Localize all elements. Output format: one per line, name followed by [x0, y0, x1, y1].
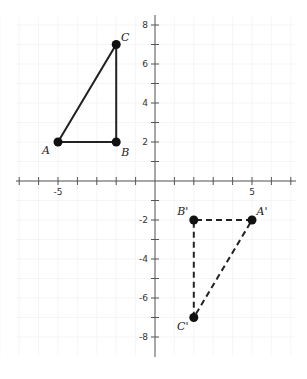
vertex-label: B' [176, 205, 188, 218]
vertex-point [112, 138, 121, 147]
y-tick-label: -6 [139, 293, 148, 303]
y-tick-label: -8 [139, 332, 148, 342]
vertex-label: A' [256, 205, 268, 218]
vertex-point [248, 216, 257, 225]
vertex-point [189, 313, 198, 322]
x-tick-label: -5 [54, 187, 63, 197]
triangle-edges [194, 220, 252, 318]
vertex-label: A [41, 144, 50, 157]
vertex-label: B [120, 146, 129, 159]
y-tick-label: -2 [139, 215, 148, 225]
y-tick-label: 6 [142, 59, 148, 69]
triangle-abc: ABC [41, 31, 130, 160]
triangle-a-prime-b-prime-c-prime: A'B'C' [176, 205, 267, 333]
y-tick-label: 2 [142, 137, 148, 147]
triangle-edges [58, 45, 116, 143]
y-tick-label: -4 [139, 254, 148, 264]
vertex-point [54, 138, 63, 147]
x-tick-label: 5 [249, 187, 255, 197]
y-tick-label: 8 [142, 20, 148, 30]
y-tick-label: 4 [142, 98, 148, 108]
vertex-label: C [121, 31, 130, 44]
vertex-point [112, 40, 121, 49]
vertex-label: C' [177, 320, 188, 333]
vertex-point [189, 216, 198, 225]
coordinate-plane: -558642-2-4-6-8 ABC A'B'C' [0, 0, 307, 379]
